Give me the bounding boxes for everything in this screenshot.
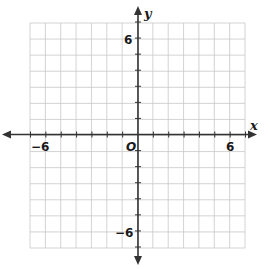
y-axis-arrow-up-icon — [134, 6, 142, 15]
y-axis-label: y — [143, 6, 153, 21]
x-tick-label-neg6: −6 — [31, 140, 49, 154]
origin-label: O — [126, 140, 136, 154]
x-axis-arrow-left-icon — [2, 131, 11, 139]
x-tick-label-6: 6 — [226, 140, 234, 154]
y-axis-arrow-down-icon — [134, 256, 142, 265]
coordinate-plane: −6 6 6 −6 O x y — [0, 0, 270, 269]
y-tick-label-6: 6 — [124, 33, 132, 47]
y-tick-label-neg6: −6 — [115, 226, 133, 240]
x-axis-label: x — [249, 118, 258, 133]
